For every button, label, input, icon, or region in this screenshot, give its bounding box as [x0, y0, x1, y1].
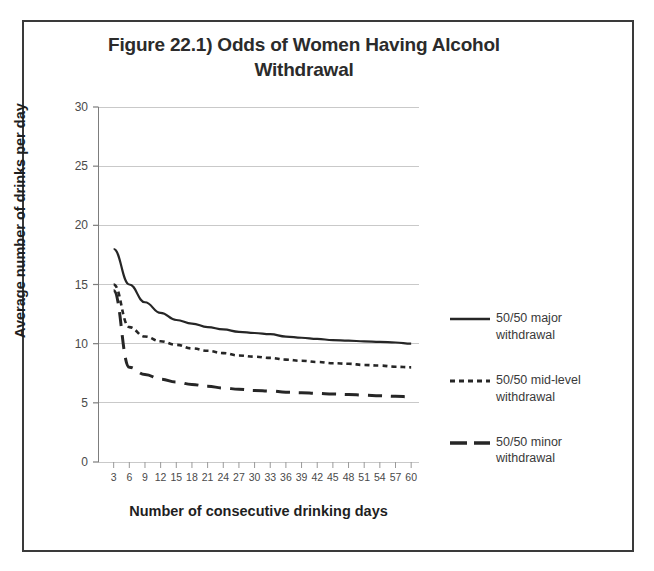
x-tick-label: 48: [343, 471, 355, 483]
legend-entry: 50/50 mid-level withdrawal: [450, 372, 620, 406]
x-tick-label: 30: [249, 471, 261, 483]
y-tick-label: 5: [58, 396, 88, 410]
legend-entry: 50/50 minor withdrawal: [450, 434, 620, 468]
x-tick-label: 42: [311, 471, 323, 483]
legend-swatch-dotted: [450, 374, 490, 388]
x-tick-label: 15: [170, 471, 182, 483]
legend-label: 50/50 major withdrawal: [496, 310, 614, 344]
legend-label: 50/50 mid-level withdrawal: [496, 372, 614, 406]
x-tick-label: 12: [155, 471, 167, 483]
y-tick-label: 10: [58, 337, 88, 351]
series-line-1: [114, 285, 412, 368]
x-tick-label: 57: [390, 471, 402, 483]
x-tick-label: 18: [186, 471, 198, 483]
x-axis-title: Number of consecutive drinking days: [98, 503, 419, 519]
y-tick-label: 0: [58, 455, 88, 469]
legend-swatch-solid: [450, 312, 490, 326]
y-tick-label: 30: [58, 100, 88, 114]
x-tick-label: 9: [142, 471, 148, 483]
legend-entry: 50/50 major withdrawal: [450, 310, 620, 344]
x-tick-label: 51: [358, 471, 370, 483]
x-tick-label: 36: [280, 471, 292, 483]
chart-legend: 50/50 major withdrawal50/50 mid-level wi…: [450, 310, 620, 495]
y-tick-label: 25: [58, 159, 88, 173]
x-tick-label: 27: [233, 471, 245, 483]
x-tick-label: 6: [126, 471, 132, 483]
x-tick-label: 33: [264, 471, 276, 483]
plot-wrapper: Average number of drinks per day 0510152…: [24, 22, 636, 554]
series-line-0: [114, 249, 412, 344]
series-line-2: [114, 290, 412, 397]
x-tick-label: 3: [111, 471, 117, 483]
x-tick-label: 24: [217, 471, 229, 483]
plot-area: [98, 107, 419, 462]
x-tick-label: 45: [327, 471, 339, 483]
y-axis-title: Average number of drinks per day: [12, 103, 28, 338]
x-tick-label: 21: [202, 471, 214, 483]
x-tick-label: 60: [405, 471, 417, 483]
x-tick-label: 54: [374, 471, 386, 483]
series-layer: [98, 107, 419, 462]
legend-swatch-dashed: [450, 436, 490, 450]
y-tick-label: 15: [58, 278, 88, 292]
figure-frame: Figure 22.1) Odds of Women Having Alcoho…: [22, 20, 634, 552]
x-tick-label: 39: [296, 471, 308, 483]
legend-label: 50/50 minor withdrawal: [496, 434, 614, 468]
y-tick-label: 20: [58, 218, 88, 232]
